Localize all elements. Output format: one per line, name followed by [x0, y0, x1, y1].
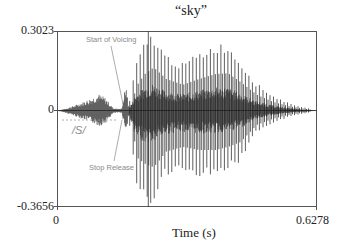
waveform-plot: /S/ Start of Voicing Stop Release: [0, 0, 346, 251]
annotation-s: /S/: [71, 124, 86, 136]
waveform-trace: [58, 37, 317, 203]
release-pointer-line: [114, 120, 122, 161]
annotation-stop-release: Stop Release: [89, 163, 134, 172]
voicing-pointer-line: [111, 46, 123, 104]
annotation-start-of-voicing: Start of Voicing: [86, 35, 136, 44]
